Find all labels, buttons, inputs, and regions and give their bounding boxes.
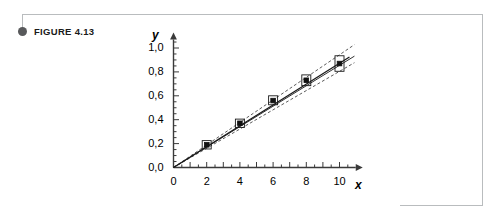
axis-ticks-group: [174, 42, 348, 167]
confidence-bands-group: [174, 45, 355, 168]
axes-group: [170, 32, 363, 170]
confidence-band-line: [174, 45, 355, 168]
figure-page: FIGURE 4.13 y x 0,00,20,40,60,81,0 02468…: [0, 0, 502, 221]
data-point-marker: [337, 61, 342, 66]
data-point-marker: [204, 142, 209, 147]
data-point-marker: [304, 78, 309, 83]
fit-line: [174, 56, 355, 167]
data-point-marker: [238, 121, 243, 126]
scatter-plot: [0, 0, 502, 221]
y-axis-arrowhead: [170, 32, 177, 39]
data-points-group: [202, 56, 344, 149]
fit-lines-group: [174, 56, 355, 167]
x-axis-arrowhead: [356, 164, 363, 171]
confidence-band-line: [174, 63, 355, 168]
data-point-marker: [271, 98, 276, 103]
